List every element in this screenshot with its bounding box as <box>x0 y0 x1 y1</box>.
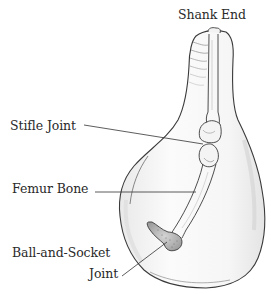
ham-outline <box>120 28 265 288</box>
ham-anatomy-diagram: Shank End Stifle Joint Femur Bone Ball-a… <box>0 0 271 294</box>
label-ball-and-socket: Ball-and-Socket <box>12 247 110 260</box>
label-shank-end: Shank End <box>178 9 246 22</box>
label-stifle-joint: Stifle Joint <box>10 120 76 133</box>
label-femur-bone: Femur Bone <box>12 183 88 196</box>
label-ball-and-socket-joint: Joint <box>89 268 118 281</box>
